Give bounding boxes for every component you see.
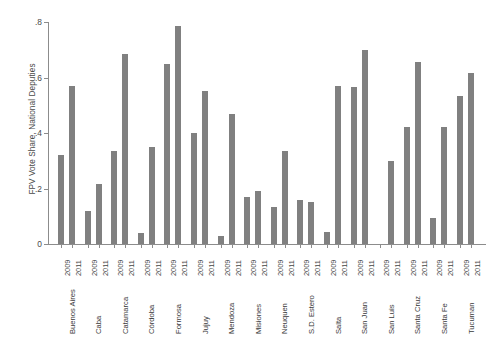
- x-axis-year-label: 2011: [288, 260, 295, 276]
- bar: [138, 233, 144, 244]
- x-axis-tick: [327, 245, 328, 248]
- x-axis-tick: [274, 245, 275, 248]
- x-axis-year-label: 2009: [64, 260, 71, 276]
- bar: [324, 232, 330, 244]
- bar: [468, 73, 474, 244]
- bar: [441, 127, 447, 244]
- bar: [69, 86, 75, 244]
- bar: [244, 197, 250, 244]
- x-axis-category-label: San Luis: [388, 304, 396, 334]
- bar: [255, 191, 261, 244]
- x-axis-tick: [407, 245, 408, 248]
- x-axis-category-label: Neuquen: [281, 303, 289, 334]
- x-axis-year-label: 2009: [383, 260, 390, 276]
- x-axis-year-label: 2011: [128, 260, 135, 276]
- x-axis-tick: [72, 245, 73, 248]
- x-axis-tick: [178, 245, 179, 248]
- bar: [202, 91, 208, 244]
- y-axis-tick: [44, 244, 49, 245]
- x-axis-year-label: 2011: [341, 260, 348, 276]
- x-axis-year-label: 2011: [447, 260, 454, 276]
- x-axis-tick: [141, 245, 142, 248]
- x-axis-category-label: San Juan: [361, 302, 369, 334]
- x-axis-tick: [444, 245, 445, 248]
- x-axis-tick: [152, 245, 153, 248]
- bar: [164, 64, 170, 244]
- bar: [430, 218, 436, 244]
- bar: [388, 161, 394, 244]
- bar: [175, 26, 181, 244]
- x-axis-tick: [285, 245, 286, 248]
- x-axis-year-label: 2011: [155, 260, 162, 276]
- x-axis-tick: [391, 245, 392, 248]
- x-axis-year-label: 2011: [181, 260, 188, 276]
- bar: [111, 151, 117, 244]
- x-axis-tick: [232, 245, 233, 248]
- x-axis-tick: [300, 245, 301, 248]
- x-axis-year-label: 2011: [261, 260, 268, 276]
- x-axis-year-label: 2011: [314, 260, 321, 276]
- x-axis-year-label: 2009: [330, 260, 337, 276]
- bar: [122, 54, 128, 244]
- x-axis-category-label: Santa Fe: [441, 303, 449, 334]
- bar: [218, 236, 224, 244]
- x-axis-tick: [247, 245, 248, 248]
- x-axis-tick: [221, 245, 222, 248]
- x-axis-year-label: 2009: [197, 260, 204, 276]
- x-axis-category-label: Formosa: [175, 304, 183, 334]
- x-axis-tick: [311, 245, 312, 248]
- y-axis-tick-label: .4: [16, 129, 42, 137]
- x-axis-category-label: S.D. Estero: [308, 295, 316, 334]
- x-axis-year-label: 2009: [303, 260, 310, 276]
- x-axis-tick: [433, 245, 434, 248]
- bar: [191, 133, 197, 244]
- x-axis-tick: [114, 245, 115, 248]
- bar: [457, 96, 463, 244]
- x-axis-tick: [194, 245, 195, 248]
- plot-area: [48, 22, 486, 244]
- x-axis-year-label: 2011: [75, 260, 82, 276]
- x-axis-category-label: Catamarca: [122, 297, 130, 334]
- bar: [351, 87, 357, 244]
- x-axis-year-label: 2009: [357, 260, 364, 276]
- x-axis-year-label: 2009: [410, 260, 417, 276]
- bar: [297, 200, 303, 244]
- x-axis-tick: [354, 245, 355, 248]
- x-axis-year-label: 2009: [436, 260, 443, 276]
- bar: [415, 62, 421, 244]
- x-axis-tick: [380, 245, 381, 248]
- bar: [404, 127, 410, 244]
- x-axis-year-label: 2011: [474, 260, 481, 276]
- y-axis-tick-label: .2: [16, 185, 42, 193]
- y-axis-tick-label: .8: [16, 18, 42, 26]
- x-axis-category-label: Mendoza: [228, 303, 236, 334]
- x-axis-tick: [205, 245, 206, 248]
- bar: [271, 207, 277, 244]
- x-axis-year-label: 2009: [463, 260, 470, 276]
- y-axis-tick-label: 0: [16, 240, 42, 248]
- bar: [229, 114, 235, 244]
- x-axis-year-label: 2009: [144, 260, 151, 276]
- bar: [85, 211, 91, 244]
- x-axis-category-label: Jujuy: [202, 316, 210, 334]
- x-axis-category-label: Buenos Aires: [69, 289, 77, 334]
- bar: [362, 50, 368, 244]
- bar: [282, 151, 288, 244]
- chart-figure: FPV Vote Share, National Deputies 0.2.4.…: [0, 0, 494, 341]
- x-axis-year-label: 2011: [394, 260, 401, 276]
- x-axis-tick: [61, 245, 62, 248]
- x-axis-tick: [471, 245, 472, 248]
- x-axis-category-label: Santa Cruz: [414, 296, 422, 334]
- x-axis-year-label: 2011: [235, 260, 242, 276]
- x-axis-category-label: Salta: [335, 317, 343, 334]
- x-axis-year-label: 2009: [91, 260, 98, 276]
- bar: [58, 155, 64, 244]
- x-axis-year-label: 2009: [277, 260, 284, 276]
- x-axis-year-label: 2011: [368, 260, 375, 276]
- x-axis-category-label: Misiones: [255, 304, 263, 334]
- x-axis-tick: [338, 245, 339, 248]
- x-axis-tick: [365, 245, 366, 248]
- x-axis-tick: [167, 245, 168, 248]
- x-axis-category-label: Córdoba: [148, 305, 156, 334]
- bar: [308, 202, 314, 244]
